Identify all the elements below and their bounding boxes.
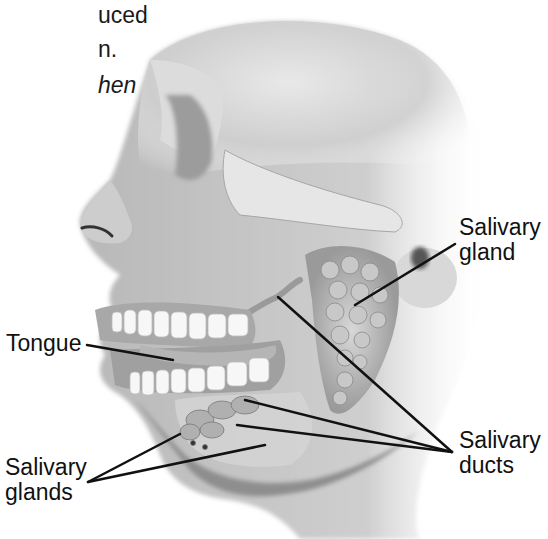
label-salivary-ducts-line1: Salivary bbox=[459, 428, 541, 453]
label-tongue: Tongue bbox=[6, 331, 81, 356]
label-salivary-ducts: Salivary ducts bbox=[459, 428, 541, 478]
label-salivary-glands-line1: Salivary bbox=[5, 455, 87, 480]
label-salivary-gland-line1: Salivary bbox=[459, 215, 541, 240]
label-salivary-glands-line2: glands bbox=[5, 480, 87, 505]
label-salivary-gland-line2: gland bbox=[459, 240, 541, 265]
label-salivary-ducts-line2: ducts bbox=[459, 453, 541, 478]
label-salivary-glands: Salivary glands bbox=[5, 455, 87, 505]
label-salivary-gland: Salivary gland bbox=[459, 215, 541, 265]
